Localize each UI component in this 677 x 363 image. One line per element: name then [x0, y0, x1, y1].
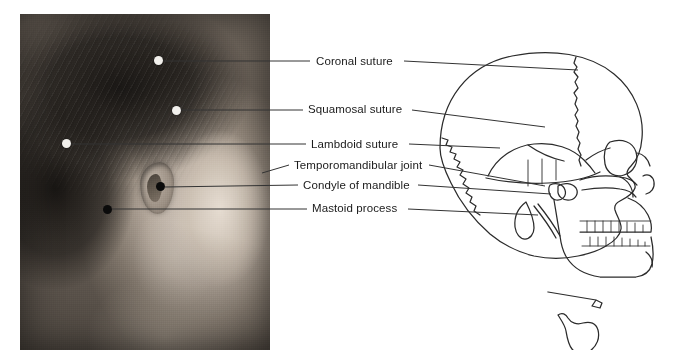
label-coronal-suture: Coronal suture [316, 56, 393, 68]
hyoid-bone [558, 314, 599, 350]
cranial-vault-outline [440, 53, 642, 259]
mandible-outline [554, 200, 653, 277]
label-temporomandibular-joint: Temporomandibular joint [294, 160, 422, 172]
maxilla-outline [580, 198, 651, 232]
anatomy-figure: Coronal suture Squamosal suture Lambdoid… [0, 0, 677, 363]
coronal-suture-line [574, 57, 581, 166]
lambdoid-suture-marker [62, 139, 71, 148]
lateral-skull-diagram [430, 20, 670, 350]
photo-vignette [20, 14, 270, 350]
mandibular-condyle [549, 184, 566, 201]
temporal-fossa-crease [528, 145, 564, 161]
styloid-fragment [548, 292, 602, 308]
label-condyle-of-mandible: Condyle of mandible [303, 180, 410, 192]
mastoid-process-marker [103, 205, 112, 214]
styloid-process [534, 206, 556, 238]
sphenoid-greater-wing [586, 148, 610, 160]
temporal-bone-lower-border [486, 172, 600, 183]
squamosal-suture-marker [172, 106, 181, 115]
external-acoustic-meatus [558, 184, 577, 201]
label-mastoid-process: Mastoid process [312, 203, 397, 215]
lateral-head-photograph [20, 14, 270, 350]
orbit-outline [604, 140, 637, 175]
label-lambdoid-suture: Lambdoid suture [311, 139, 398, 151]
tmj-tick-marks [528, 159, 556, 186]
coronal-suture-marker [154, 56, 163, 65]
condyle-of-mandible-marker [156, 182, 165, 191]
mastoid-process-outline [515, 202, 534, 239]
nasal-aperture [643, 175, 654, 194]
upper-teeth [580, 221, 651, 232]
label-squamosal-suture: Squamosal suture [308, 104, 402, 116]
